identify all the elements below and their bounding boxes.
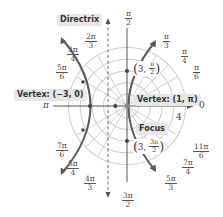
- point-bottom-label: (3, 3π2): [133, 139, 164, 154]
- angle-pi4: π4: [181, 48, 188, 65]
- vertex-right-point: [113, 104, 117, 108]
- angle-pi-label: π: [43, 100, 49, 110]
- angle-pi2: π2: [125, 10, 132, 27]
- focus-label: Focus: [136, 123, 168, 135]
- vertex-right-label: Vertex: (1, π): [134, 94, 201, 106]
- angle-5pi4: 5π4: [67, 160, 79, 177]
- angle-7pi4: 7π4: [182, 159, 194, 176]
- point-bottom: [125, 139, 129, 143]
- angle-3pi2: 3π2: [122, 192, 134, 209]
- angle-11pi6: 11π6: [193, 143, 209, 160]
- focus-point: [125, 104, 130, 109]
- angle-5pi3: 5π3: [165, 175, 177, 192]
- polar-grid: [0, 0, 223, 217]
- angle-3pi4: 3π4: [67, 46, 79, 63]
- point-top: [125, 69, 129, 73]
- angle-7pi6: 7π6: [56, 142, 68, 159]
- vertex-left-point: [88, 104, 92, 108]
- point-top-label: (3, π2): [133, 61, 160, 76]
- radial-tick-4: 4: [176, 112, 182, 122]
- vertex-left-label: Vertex: (−3, 0): [14, 89, 87, 101]
- directrix-label: Directrix: [57, 14, 102, 26]
- angle-pi3: π3: [163, 33, 170, 50]
- angle-2pi3: 2π3: [85, 33, 97, 50]
- angle-zero-label: 0: [199, 100, 205, 110]
- directrix-line: [106, 18, 111, 198]
- angle-4pi3: 4π3: [84, 175, 96, 192]
- angle-5pi6: 5π6: [56, 64, 68, 81]
- angle-pi6: π6: [193, 64, 200, 81]
